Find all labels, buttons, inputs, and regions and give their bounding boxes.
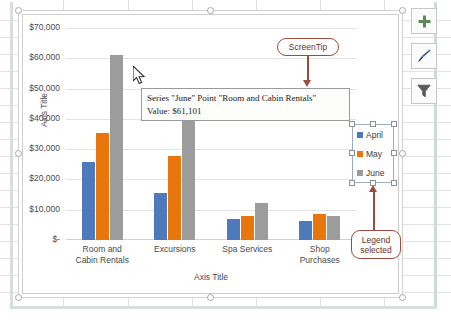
- bar-group[interactable]: [154, 28, 195, 240]
- plus-icon: [417, 14, 432, 29]
- bar-group[interactable]: [82, 28, 123, 240]
- chart-elements-button[interactable]: [411, 8, 437, 34]
- bar-april-1[interactable]: [154, 193, 167, 240]
- bar-group[interactable]: [227, 28, 268, 240]
- legend-resize-handle-ml[interactable]: [349, 150, 355, 156]
- paintbrush-icon: [416, 48, 432, 64]
- bar-june-2[interactable]: [255, 203, 268, 240]
- legend-swatch-may: [357, 151, 363, 157]
- bar-june-0[interactable]: [110, 55, 123, 240]
- annotation-screentip-arrow-head: [303, 80, 311, 87]
- legend-resize-handle-br[interactable]: [391, 180, 397, 186]
- y-axis-tick-label: $20,000: [2, 174, 60, 183]
- legend-label-may: May: [366, 149, 382, 159]
- y-axis-tick-label: $30,000: [2, 144, 60, 153]
- x-axis-title[interactable]: Axis Title: [66, 272, 356, 282]
- chart-resize-handle-bc[interactable]: [207, 294, 214, 301]
- data-point-screentip: Series "June" Point "Room and Cabin Rent…: [141, 88, 350, 121]
- chart-filters-button[interactable]: [411, 78, 437, 104]
- worksheet-left-edge: [10, 2, 13, 309]
- y-axis-tick-label: $40,000: [2, 114, 60, 123]
- chart-resize-handle-bl[interactable]: [15, 294, 22, 301]
- bar-may-1[interactable]: [168, 156, 181, 240]
- annotation-legend-callout: Legend selected: [351, 230, 401, 259]
- legend-resize-handle-tl[interactable]: [349, 121, 355, 127]
- bar-april-0[interactable]: [82, 162, 95, 240]
- chart-resize-handle-br[interactable]: [399, 294, 406, 301]
- legend-resize-handle-tr[interactable]: [391, 121, 397, 127]
- annotation-legend-label-line1: Legend: [362, 235, 390, 245]
- chart-resize-handle-ml[interactable]: [15, 150, 22, 157]
- y-axis-tick-label: $-: [2, 235, 60, 244]
- screentip-value-line: Value: $61,101: [147, 105, 344, 118]
- legend-resize-handle-bc[interactable]: [370, 180, 376, 186]
- annotation-legend-arrow-line: [373, 192, 375, 230]
- chart-resize-handle-tr[interactable]: [399, 7, 406, 14]
- bar-may-3[interactable]: [313, 214, 326, 240]
- annotation-legend-label: Legend selected: [360, 235, 392, 255]
- legend-label-june: June: [366, 168, 384, 178]
- y-axis-title[interactable]: Axis Title: [39, 93, 49, 127]
- worksheet-bottom-edge: [10, 306, 437, 309]
- screentip-series-line: Series "June" Point "Room and Cabin Rent…: [147, 92, 344, 105]
- annotation-legend-arrow-head: [369, 185, 377, 192]
- legend-item-june[interactable]: June: [357, 168, 384, 178]
- bar-group[interactable]: [299, 28, 340, 240]
- annotation-screentip-callout: ScreenTip: [277, 38, 339, 56]
- y-axis-tick-label: $10,000: [2, 205, 60, 214]
- legend-swatch-april: [357, 132, 363, 138]
- legend-item-april[interactable]: April: [357, 130, 383, 140]
- legend-item-may[interactable]: May: [357, 149, 382, 159]
- chart-styles-button[interactable]: [411, 43, 437, 69]
- y-axis-tick-label: $50,000: [2, 84, 60, 93]
- chart-legend[interactable]: April May June: [352, 124, 394, 183]
- legend-swatch-june: [357, 170, 363, 176]
- annotation-screentip-arrow-line: [307, 56, 309, 82]
- chart-resize-handle-tl[interactable]: [15, 7, 22, 14]
- bar-may-0[interactable]: [96, 133, 109, 240]
- bar-april-2[interactable]: [227, 219, 240, 240]
- annotation-legend-label-line2: selected: [360, 245, 392, 255]
- funnel-icon: [416, 83, 432, 99]
- legend-label-april: April: [366, 130, 383, 140]
- bar-june-3[interactable]: [327, 216, 340, 241]
- y-axis-tick-label: $70,000: [2, 23, 60, 32]
- legend-resize-handle-tc[interactable]: [370, 121, 376, 127]
- legend-resize-handle-mr[interactable]: [391, 150, 397, 156]
- mouse-cursor-icon: [133, 66, 147, 90]
- plot-area[interactable]: $70,000$60,000$50,000$40,000$30,000$20,0…: [66, 28, 356, 240]
- y-axis-tick-label: $60,000: [2, 53, 60, 62]
- legend-resize-handle-bl[interactable]: [349, 180, 355, 186]
- chart-resize-handle-mr[interactable]: [399, 150, 406, 157]
- bar-may-2[interactable]: [241, 216, 254, 241]
- bar-april-3[interactable]: [299, 221, 312, 240]
- chart-resize-handle-tc[interactable]: [207, 7, 214, 14]
- annotation-screentip-label: ScreenTip: [289, 42, 327, 52]
